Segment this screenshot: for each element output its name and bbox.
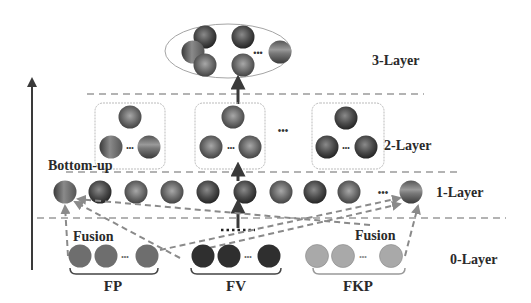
- layer2-box-2: •••: [195, 103, 265, 169]
- layer1-ellipsis: •••: [378, 187, 389, 198]
- ellipsis: •••: [121, 253, 129, 260]
- label-fusion-left: Fusion: [73, 229, 114, 244]
- label-3-layer: 3-Layer: [372, 53, 419, 68]
- group-label-fv: FV: [226, 278, 246, 294]
- ellipsis: •••: [253, 48, 262, 58]
- ellipsis: •••: [126, 144, 134, 151]
- group-fp: ••• FP: [69, 245, 159, 295]
- group-fkp: ••• FKP: [306, 245, 406, 295]
- group-fv: ••• FV: [191, 245, 281, 295]
- hierarchical-fusion-diagram: ••• ••• ••• ••• ••• •••: [0, 0, 531, 303]
- group-label-fp: FP: [104, 278, 122, 294]
- label-1-layer: 1-Layer: [436, 185, 483, 200]
- ellipsis: •••: [244, 253, 252, 260]
- ellipsis: •••: [359, 253, 367, 260]
- label-0-layer: 0-Layer: [450, 252, 497, 267]
- group-label-fkp: FKP: [343, 278, 373, 294]
- ellipsis: •••: [342, 144, 350, 151]
- label-bottom-up: Bottom-up: [48, 158, 113, 173]
- label-2-layer: 2-Layer: [384, 138, 431, 153]
- layer2-ellipsis: •••: [278, 125, 289, 136]
- label-fusion-right: Fusion: [355, 228, 396, 243]
- layer2-box-3: •••: [312, 103, 384, 169]
- layer1-nodes: •••: [54, 181, 423, 204]
- ellipsis: •••: [227, 144, 235, 151]
- layer3-cluster: •••: [165, 24, 292, 78]
